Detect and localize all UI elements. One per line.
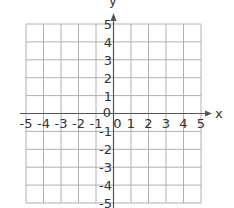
- x-tick-label: -3: [55, 116, 68, 131]
- x-axis-arrow-icon: [205, 111, 212, 117]
- y-axis-label: y: [109, 0, 117, 8]
- x-tick-labels: -5-4-3-2-1012345: [20, 116, 206, 131]
- y-tick-label: -2: [99, 142, 112, 157]
- x-tick-label: -2: [72, 116, 85, 131]
- y-tick-label: 0: [103, 105, 111, 120]
- y-tick-label: 1: [104, 89, 112, 104]
- y-tick-label: -5: [99, 196, 112, 208]
- coordinate-plane: x y -5-4-3-2-1012345 543210-1-2-3-4-5: [0, 0, 234, 208]
- y-tick-label: -4: [99, 178, 112, 193]
- x-tick-label: 1: [127, 116, 135, 131]
- y-tick-label: -3: [99, 160, 112, 175]
- x-tick-label: -4: [37, 116, 50, 131]
- x-tick-label: -5: [20, 116, 33, 131]
- y-tick-label: -1: [99, 124, 112, 139]
- y-tick-label: 4: [104, 35, 112, 50]
- x-tick-label: 2: [144, 116, 152, 131]
- y-tick-label: 3: [104, 53, 112, 68]
- x-tick-label: 3: [162, 116, 170, 131]
- x-axis-label: x: [215, 106, 223, 121]
- y-tick-label: 2: [104, 71, 112, 86]
- x-tick-label: 0: [113, 116, 121, 131]
- x-tick-label: 5: [197, 116, 205, 131]
- y-tick-labels: 543210-1-2-3-4-5: [99, 17, 112, 208]
- x-tick-label: 4: [179, 116, 187, 131]
- y-tick-label: 5: [104, 17, 112, 32]
